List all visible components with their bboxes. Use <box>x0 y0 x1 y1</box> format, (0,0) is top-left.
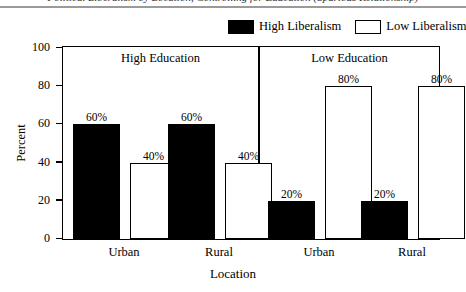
bar-value-label: 80% <box>338 73 359 87</box>
bar-low-education-rural-high-liberalism: 20% <box>361 201 408 239</box>
y-tick-20 <box>56 199 63 201</box>
legend-swatch-low-liberalism <box>355 20 381 34</box>
bar-value-label: 80% <box>431 73 452 87</box>
y-tick-80 <box>56 85 63 87</box>
bar-value-label: 40% <box>238 150 259 164</box>
chart-legend: High Liberalism Low Liberalism <box>228 19 466 34</box>
bar-value-label: 60% <box>181 111 202 125</box>
y-tick-label-0: 0 <box>44 231 50 246</box>
legend-label-low-liberalism: Low Liberalism <box>386 19 466 34</box>
x-tick-label-high-education-rural: Rural <box>205 245 233 260</box>
panel-title-high-education: High Education <box>63 51 258 66</box>
y-tick-0 <box>56 238 63 240</box>
bar-value-label: 20% <box>374 188 395 202</box>
x-tick-label-high-education-urban: Urban <box>108 245 139 260</box>
y-tick-label-60: 60 <box>38 116 50 131</box>
bar-low-education-urban-high-liberalism: 20% <box>268 201 315 239</box>
bar-high-education-rural-high-liberalism: 60% <box>168 124 215 239</box>
y-tick-label-100: 100 <box>32 40 50 55</box>
y-axis-title: Percent <box>14 124 29 161</box>
x-tick-label-low-education-rural: Rural <box>398 245 426 260</box>
plot-area: High Education Low Education Percent 0 2… <box>62 46 440 240</box>
bar-high-education-urban-high-liberalism: 60% <box>73 124 120 239</box>
bar-low-education-rural-low-liberalism: 80% <box>418 86 465 239</box>
y-tick-label-20: 20 <box>38 192 50 207</box>
bar-value-label: 40% <box>143 150 164 164</box>
legend-item-high-liberalism: High Liberalism <box>228 19 341 34</box>
title-divider-rule <box>0 6 466 8</box>
y-tick-label-40: 40 <box>38 154 50 169</box>
bar-value-label: 60% <box>86 111 107 125</box>
y-tick-100 <box>56 47 63 49</box>
x-tick-label-low-education-urban: Urban <box>303 245 334 260</box>
y-tick-40 <box>56 161 63 163</box>
legend-swatch-high-liberalism <box>228 20 254 34</box>
bar-high-education-rural-low-liberalism: 40% <box>225 163 272 239</box>
x-axis-title: Location <box>0 266 466 282</box>
y-tick-60 <box>56 123 63 125</box>
chart-title: Political Liberalism by Location, Contro… <box>0 0 466 3</box>
panel-title-low-education: Low Education <box>258 51 441 66</box>
y-tick-label-80: 80 <box>38 78 50 93</box>
legend-label-high-liberalism: High Liberalism <box>259 19 341 34</box>
legend-item-low-liberalism: Low Liberalism <box>355 19 466 34</box>
bar-value-label: 20% <box>281 188 302 202</box>
